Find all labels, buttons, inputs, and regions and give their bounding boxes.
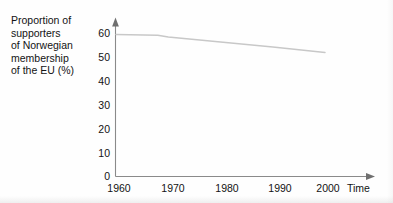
y-tick-label-40: 40 <box>86 76 110 86</box>
x-tick-label-1980: 1980 <box>207 183 247 193</box>
x-tick-label-2000: 2000 <box>308 183 348 193</box>
y-tick-label-50: 50 <box>86 52 110 62</box>
plot-area <box>0 0 393 203</box>
y-tick-label-20: 20 <box>86 124 110 134</box>
data-series-line <box>116 35 325 53</box>
y-tick-label-60: 60 <box>86 28 110 38</box>
x-tick-label-1960: 1960 <box>99 183 139 193</box>
x-tick-label-1990: 1990 <box>260 183 300 193</box>
y-tick-label-0: 0 <box>86 171 110 181</box>
y-axis-arrow-icon <box>112 18 119 27</box>
x-axis-arrow-icon <box>366 173 375 180</box>
y-tick-label-10: 10 <box>86 148 110 158</box>
chart-figure: Proportion of supporters of Norwegian me… <box>0 0 393 203</box>
y-tick-label-30: 30 <box>86 100 110 110</box>
x-tick-label-1970: 1970 <box>153 183 193 193</box>
x-axis-label: Time <box>347 183 370 193</box>
